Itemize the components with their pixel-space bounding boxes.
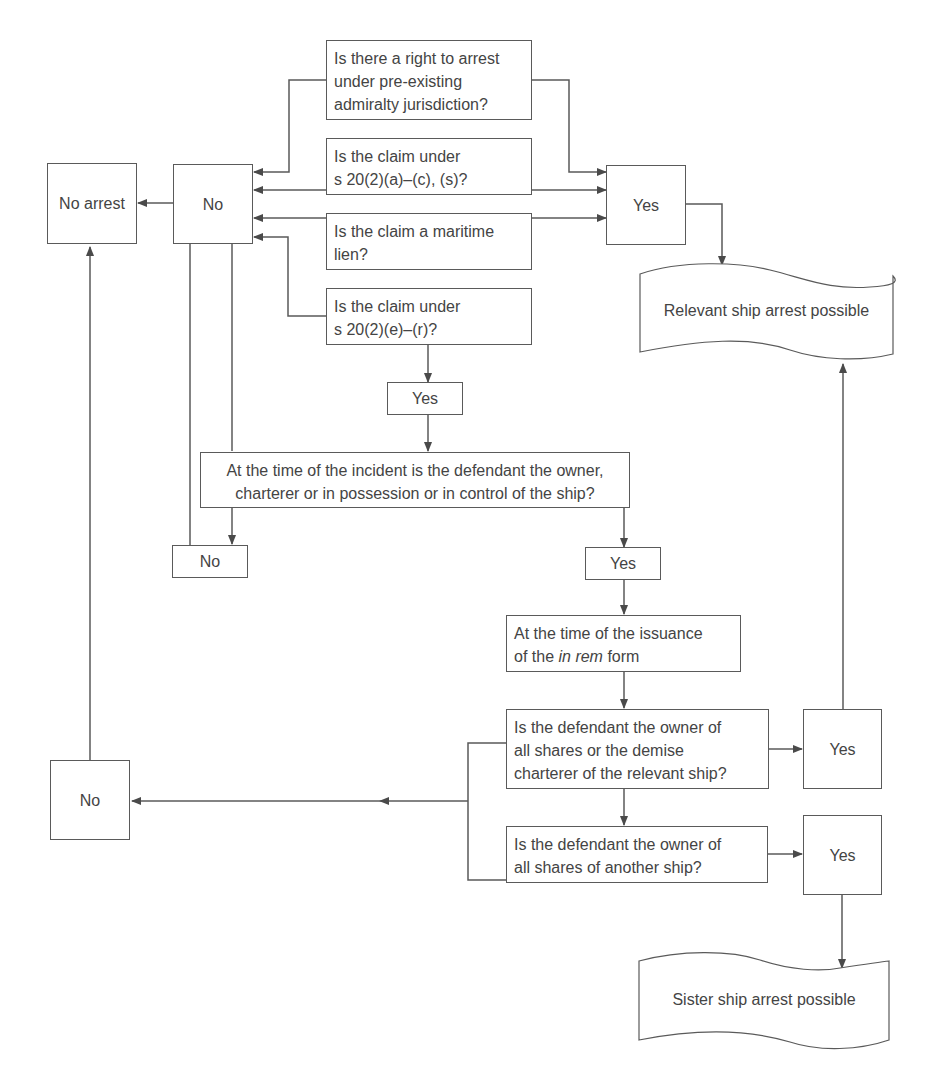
node-text: Is the claim under	[334, 295, 531, 318]
node-text: Relevant ship arrest possible	[664, 302, 869, 319]
node-text-part: form	[603, 648, 639, 665]
node-text: lien?	[334, 243, 531, 266]
node-text: Sister ship arrest possible	[672, 991, 855, 1008]
answer-no-top: No	[173, 164, 253, 244]
outcome-relevant-ship-arrest: Relevant ship arrest possible	[640, 302, 893, 320]
node-text: s 20(2)(a)–(c), (s)?	[334, 168, 531, 191]
question-incident-ownership: At the time of the incident is the defen…	[200, 452, 630, 508]
node-text: all shares or the demise	[514, 739, 768, 762]
node-text: No	[203, 193, 223, 216]
answer-yes-top: Yes	[606, 165, 686, 245]
question-s20-e-r: Is the claim under s 20(2)(e)–(r)?	[326, 288, 532, 345]
answer-yes-demise: Yes	[803, 709, 882, 789]
answer-no-bottom: No	[50, 760, 130, 840]
node-text: No	[80, 789, 100, 812]
node-text: Is the claim a maritime	[334, 220, 531, 243]
node-text: under pre-existing	[334, 70, 531, 93]
node-text: all shares of another ship?	[514, 856, 767, 879]
question-preexisting-jurisdiction: Is there a right to arrest under pre-exi…	[326, 40, 532, 120]
node-text: Yes	[633, 194, 659, 217]
answer-yes-incident: Yes	[585, 547, 661, 580]
node-text-part: of the	[514, 648, 558, 665]
outcome-no-arrest: No arrest	[47, 163, 137, 244]
node-text: charterer of the relevant ship?	[514, 762, 768, 785]
question-owner-or-demise-charterer: Is the defendant the owner of all shares…	[506, 709, 769, 789]
node-text: Yes	[829, 738, 855, 761]
node-text-italic: in rem	[558, 648, 602, 665]
node-text: Yes	[829, 844, 855, 867]
node-text: charterer or in possession or in control…	[201, 482, 629, 505]
question-maritime-lien: Is the claim a maritime lien?	[326, 213, 532, 270]
node-text: At the time of the issuance	[514, 622, 740, 645]
node-text: Yes	[610, 552, 636, 575]
question-owner-another-ship: Is the defendant the owner of all shares…	[506, 826, 768, 883]
node-text: admiralty jurisdiction?	[334, 93, 531, 116]
step-issuance-in-rem: At the time of the issuance of the in re…	[506, 615, 741, 672]
node-text: Is the claim under	[334, 145, 531, 168]
node-text: At the time of the incident is the defen…	[201, 459, 629, 482]
node-text: No arrest	[59, 192, 125, 215]
answer-no-incident: No	[172, 545, 248, 578]
node-text: Is the defendant the owner of	[514, 833, 767, 856]
node-text: Is there a right to arrest	[334, 47, 531, 70]
outcome-sister-ship-arrest: Sister ship arrest possible	[639, 991, 889, 1009]
node-text: Is the defendant the owner of	[514, 716, 768, 739]
answer-yes-after-s20-e-r: Yes	[387, 382, 463, 415]
answer-yes-another: Yes	[803, 815, 882, 895]
node-text: No	[200, 550, 220, 573]
question-s20-a-c: Is the claim under s 20(2)(a)–(c), (s)?	[326, 138, 532, 195]
node-text: s 20(2)(e)–(r)?	[334, 318, 531, 341]
node-text: Yes	[412, 387, 438, 410]
node-text: of the in rem form	[514, 645, 740, 668]
